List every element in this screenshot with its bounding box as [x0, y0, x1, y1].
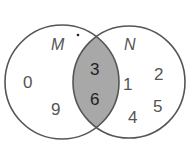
element-3: 3: [90, 60, 99, 79]
set-label-m: M: [51, 36, 65, 53]
element-2: 2: [154, 65, 163, 84]
venn-diagram: M N 0 9 3 6 1 2 4 5: [0, 0, 195, 150]
dot-mark: [77, 34, 80, 37]
element-4: 4: [128, 108, 137, 127]
element-5: 5: [153, 97, 162, 116]
set-label-n: N: [124, 36, 136, 53]
element-9: 9: [51, 100, 60, 119]
element-0: 0: [23, 73, 32, 92]
element-1: 1: [123, 75, 132, 94]
element-6: 6: [90, 90, 99, 109]
